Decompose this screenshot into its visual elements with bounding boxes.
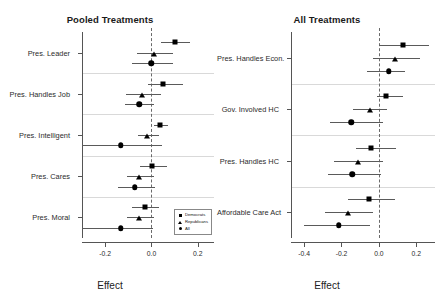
data-point-triangle [151, 52, 157, 57]
y-axis-category-label: Pres. Handles Econ. [217, 53, 279, 62]
y-axis-line [291, 32, 292, 238]
x-axis-tick [151, 243, 152, 247]
y-axis-category-label: Pres. Handles HC [217, 156, 279, 165]
x-axis-tick-label: 0.2 [193, 250, 202, 257]
x-axis-line [291, 242, 435, 243]
data-point-square [160, 82, 165, 87]
axis-title-all: Effect [217, 280, 437, 291]
legend-item-label: Republicans [185, 220, 208, 224]
legend-key [177, 227, 183, 230]
y-axis-category-label: Pres. Handles Job [0, 89, 70, 98]
data-point-square [369, 146, 374, 151]
data-point-triangle [139, 93, 145, 98]
data-point-circle [136, 101, 142, 107]
category-separator [82, 156, 214, 157]
x-axis-line [82, 242, 214, 243]
y-axis-category-label: Affordable Care Act [217, 208, 279, 217]
data-point-circle [349, 171, 355, 177]
y-axis-tick [78, 176, 82, 177]
y-axis-line [82, 32, 83, 238]
data-point-square [149, 164, 154, 169]
data-point-circle [118, 142, 124, 148]
x-axis-tick-label: -0.2 [336, 250, 348, 257]
category-separator [82, 73, 214, 74]
data-point-square [142, 205, 147, 210]
panel-pooled-treatments: Pooled Treatments -0.20.00.2Pres. Leader… [0, 0, 220, 297]
category-separator [82, 114, 214, 115]
category-separator [291, 187, 435, 188]
y-axis-tick [287, 58, 291, 59]
legend-marker-triangle-icon [178, 221, 182, 224]
x-axis-tick [304, 243, 305, 247]
x-axis-tick-label: 0.2 [412, 250, 421, 257]
y-axis-tick [78, 135, 82, 136]
y-axis-tick [78, 53, 82, 54]
coefficient-plot-figure: Pooled Treatments -0.20.00.2Pres. Leader… [0, 0, 437, 297]
y-axis-tick [78, 94, 82, 95]
x-axis-tick [416, 243, 417, 247]
data-point-circle [348, 119, 354, 125]
data-point-circle [386, 68, 392, 74]
data-point-square [367, 197, 372, 202]
plot-area-all: -0.4-0.20.00.2Pres. Handles Econ.Gov. In… [217, 0, 437, 297]
y-axis-category-label: Pres. Intelligent [0, 131, 70, 140]
y-axis-category-label: Gov. Involved HC [217, 105, 279, 114]
confidence-interval-bar [330, 122, 383, 123]
data-point-circle [132, 184, 138, 190]
legend-item-label: Democrats [185, 213, 205, 217]
y-axis-tick [287, 109, 291, 110]
x-axis-tick-label: -0.2 [99, 250, 111, 257]
data-point-triangle [144, 134, 150, 139]
data-point-circle [336, 222, 342, 228]
category-separator [291, 84, 435, 85]
x-axis-tick-label: -0.4 [298, 250, 310, 257]
y-axis-category-label: Pres. Leader [0, 48, 70, 57]
data-point-triangle [345, 211, 351, 216]
plot-area-pooled: -0.20.00.2Pres. LeaderPres. Handles JobP… [0, 0, 220, 297]
legend-item: All [177, 226, 208, 232]
data-point-square [383, 94, 388, 99]
category-separator [82, 197, 214, 198]
legend-key [177, 214, 183, 217]
panel-all-treatments: All Treatments -0.4-0.20.00.2Pres. Handl… [217, 0, 437, 297]
data-point-square [158, 123, 163, 128]
axis-title-pooled: Effect [0, 280, 220, 291]
y-axis-category-label: Pres. Cares [0, 172, 70, 181]
zero-reference-line [379, 28, 380, 238]
data-point-circle [149, 60, 155, 66]
legend-key [177, 221, 183, 224]
data-point-triangle [136, 175, 142, 180]
category-separator [291, 135, 435, 136]
x-axis-tick [379, 243, 380, 247]
legend-marker-square-icon [179, 214, 182, 217]
data-point-circle [118, 225, 124, 231]
y-axis-tick [287, 161, 291, 162]
x-axis-tick-label: 0.0 [147, 250, 156, 257]
x-axis-tick-label: 0.0 [374, 250, 383, 257]
legend-item: Democrats [177, 213, 208, 219]
data-point-triangle [367, 108, 373, 113]
legend: DemocratsRepublicansAll [174, 209, 212, 235]
confidence-interval-bar [148, 84, 183, 85]
legend-marker-circle-icon [179, 227, 182, 230]
legend-item: Republicans [177, 219, 208, 225]
legend-item-label: All [185, 227, 190, 231]
x-axis-tick [341, 243, 342, 247]
data-point-square [400, 43, 405, 48]
data-point-triangle [392, 57, 398, 62]
confidence-interval-bar [377, 96, 403, 97]
data-point-triangle [136, 216, 142, 221]
confidence-interval-bar [356, 148, 395, 149]
y-axis-category-label: Pres. Moral [0, 213, 70, 222]
y-axis-tick [287, 212, 291, 213]
data-point-square [172, 40, 177, 45]
x-axis-tick [105, 243, 106, 247]
y-axis-tick [78, 217, 82, 218]
data-point-triangle [355, 160, 361, 165]
x-axis-tick [198, 243, 199, 247]
